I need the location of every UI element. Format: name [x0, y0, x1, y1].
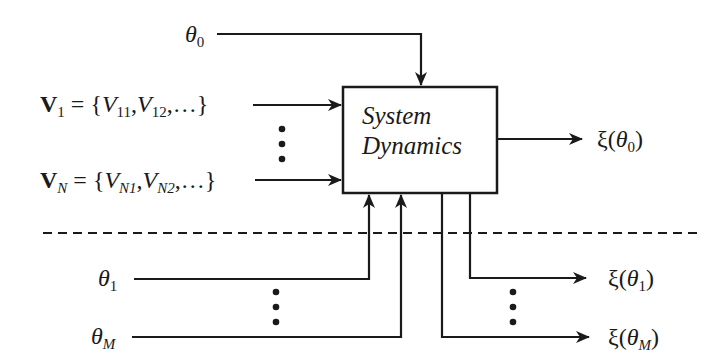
box-line-2: Dynamics: [362, 131, 462, 161]
ellipsis-inputs-v: [279, 126, 286, 163]
theta1-label: θ1: [98, 266, 117, 294]
ellipsis-outputs-xi: [510, 289, 517, 326]
theta0-label: θ0: [185, 22, 204, 50]
xi1-label: ξ(θ1): [608, 266, 654, 294]
system-box-label: System Dynamics: [362, 101, 462, 161]
box-line-1: System: [362, 101, 462, 131]
v1-label: V1 = {V11,V12,…}: [40, 92, 208, 120]
vn-label: VN = {VN1,VN2,…}: [40, 168, 216, 196]
thetam-arrow: [132, 195, 401, 337]
system-dynamics-diagram: System Dynamics θ0 V1 = {V11,V12,…} VN =…: [0, 0, 724, 363]
thetam-label: θM: [91, 324, 115, 352]
xi1-arrow: [470, 193, 586, 278]
xi0-label: ξ(θ0): [597, 127, 643, 155]
xim-arrow: [442, 193, 589, 337]
xim-label: ξ(θM): [608, 325, 659, 353]
ellipsis-inputs-theta: [273, 289, 280, 326]
theta0-arrow: [217, 34, 421, 85]
theta1-arrow: [134, 195, 369, 279]
